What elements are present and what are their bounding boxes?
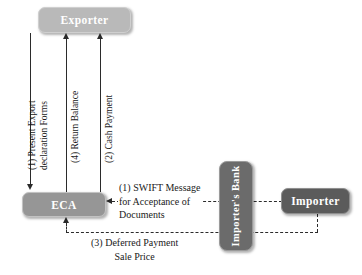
connector-deferred-vertical-left bbox=[66, 223, 67, 233]
process-flow-diagram: Exporter ECA Importer's Bank Importer (1… bbox=[0, 0, 362, 275]
label-swift-message-line1: (1) SWIFT Message bbox=[119, 181, 200, 195]
label-cash-payment-text: (2) Cash Payment bbox=[104, 95, 114, 163]
node-importer-bank-label-line1: Importer's bbox=[230, 194, 241, 246]
connector-return-balance-line bbox=[66, 38, 67, 192]
connector-deferred-horizontal bbox=[66, 232, 318, 233]
label-swift-message-line2: for Acceptance of bbox=[119, 195, 200, 209]
node-importer: Importer bbox=[281, 188, 350, 214]
node-importer-bank: Importer's Bank bbox=[219, 161, 253, 251]
arrowhead-return-balance-up bbox=[63, 33, 69, 39]
arrowhead-deferred-up bbox=[63, 217, 69, 223]
node-importer-bank-label: Importer's Bank bbox=[230, 166, 242, 247]
connector-cash-payment-line bbox=[100, 38, 101, 192]
label-return-balance-text: (4) Return Balance bbox=[70, 91, 80, 163]
arrowhead-cash-payment-up bbox=[97, 33, 103, 39]
label-deferred-payment-line2: Sale Price bbox=[91, 250, 178, 264]
node-eca: ECA bbox=[22, 192, 106, 217]
node-exporter: Exporter bbox=[38, 7, 131, 33]
label-return-balance: (4) Return Balance bbox=[70, 91, 82, 163]
label-cash-payment: (2) Cash Payment bbox=[104, 95, 116, 163]
node-importer-label: Importer bbox=[291, 195, 340, 207]
label-present-export: (1) Present Export declaration Forms bbox=[27, 100, 51, 170]
node-exporter-label: Exporter bbox=[61, 14, 109, 26]
arrowhead-present-export-down bbox=[27, 184, 33, 190]
connector-deferred-vertical-right bbox=[317, 214, 318, 232]
node-eca-label: ECA bbox=[51, 199, 76, 211]
label-present-export-line2: declaration Forms bbox=[39, 100, 51, 170]
node-importer-bank-label-line2: Bank bbox=[230, 166, 241, 192]
label-deferred-payment-line1: (3) Deferred Payment bbox=[91, 236, 178, 250]
arrowhead-swift-left bbox=[106, 198, 112, 204]
label-present-export-line1: (1) Present Export bbox=[27, 100, 37, 170]
label-deferred-payment: (3) Deferred Payment Sale Price bbox=[90, 236, 179, 263]
label-swift-message: (1) SWIFT Message for Acceptance of Docu… bbox=[118, 181, 201, 222]
label-swift-message-line3: Documents bbox=[119, 208, 200, 222]
